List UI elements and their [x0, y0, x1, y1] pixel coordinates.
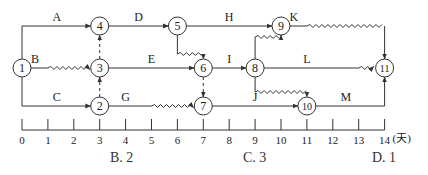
node-9: 9 [272, 17, 290, 35]
svg-text:3: 3 [97, 61, 103, 75]
node-7: 7 [194, 97, 212, 115]
axis-tick-label: 6 [175, 134, 181, 146]
node-10: 10 [298, 97, 316, 115]
axis-tick-label: 13 [353, 134, 365, 146]
svg-text:1: 1 [19, 61, 25, 75]
activity-g-free-float [152, 105, 194, 108]
dummy-8-10 [255, 77, 307, 97]
activity-label-i: I [227, 52, 231, 66]
svg-text:11: 11 [380, 63, 390, 74]
answer-option-b: B. 2 [110, 150, 133, 166]
axis-tick-label: 7 [201, 134, 207, 146]
activity-l [264, 67, 374, 70]
svg-text:5: 5 [174, 19, 180, 33]
dummy-5-6-free-float [177, 53, 201, 56]
node-8: 8 [246, 59, 264, 77]
dummy-5-6 [177, 35, 203, 59]
axis-unit-label: (天) [393, 132, 412, 145]
activity-b-free-float [48, 67, 90, 70]
axis-tick-label: 9 [252, 134, 258, 146]
axis-tick-label: 10 [276, 134, 288, 146]
dummy-8-9 [255, 35, 281, 59]
answer-option-d: D. 1 [372, 150, 396, 166]
activity-b [31, 67, 90, 70]
activity-label-k: K [290, 10, 299, 24]
axis-tick-label: 1 [45, 134, 51, 146]
node-1: 1 [13, 59, 31, 77]
svg-text:8: 8 [252, 61, 258, 75]
activity-g [109, 105, 194, 108]
activity-label-a: A [53, 10, 62, 24]
activity-label-g: G [121, 90, 130, 104]
activity-label-c: C [53, 90, 61, 104]
svg-text:4: 4 [97, 19, 103, 33]
activity-label-d: D [134, 10, 143, 24]
node-5: 5 [168, 17, 186, 35]
node-2: 2 [91, 97, 109, 115]
activity-label-j: J [253, 90, 258, 104]
activity-label-l: L [303, 52, 310, 66]
svg-text:10: 10 [302, 101, 312, 112]
axis-tick-label: 14 [379, 134, 391, 146]
svg-text:9: 9 [278, 19, 284, 33]
svg-text:7: 7 [200, 99, 206, 113]
node-6: 6 [194, 59, 212, 77]
activity-label-m: M [340, 90, 351, 104]
activity-k-free-float [307, 25, 382, 28]
node-3: 3 [91, 59, 109, 77]
axis-tick-label: 12 [327, 134, 338, 146]
axis-tick-label: 11 [302, 134, 313, 146]
activity-l-free-float [359, 67, 374, 70]
activity-label-h: H [225, 10, 234, 24]
node-4: 4 [91, 17, 109, 35]
node-11: 11 [376, 59, 394, 77]
axis-tick-label: 0 [19, 134, 25, 146]
axis-tick-label: 2 [71, 134, 77, 146]
svg-text:2: 2 [97, 99, 103, 113]
axis-tick-label: 3 [97, 134, 103, 146]
dummy-8-10-free-float [255, 91, 306, 94]
activity-label-b: B [31, 52, 39, 66]
svg-text:6: 6 [200, 61, 206, 75]
network-diagram: 1234567891011 ABCDEGHIJKLM 0123456789101… [0, 0, 428, 175]
activity-label-e: E [148, 52, 155, 66]
axis-tick-label: 4 [123, 134, 129, 146]
answer-option-c: C. 3 [243, 150, 266, 166]
axis-tick-label: 8 [226, 134, 232, 146]
axis-tick-label: 5 [149, 134, 155, 146]
dummy-8-9-free-float [255, 36, 279, 39]
